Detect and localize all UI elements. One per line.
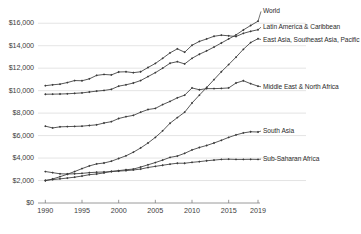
data-point-marker — [52, 172, 54, 174]
series-label-2: East Asia, Southeast Asia, Pacific — [263, 36, 360, 44]
data-point-marker — [81, 172, 83, 174]
series-label-5: Sub-Saharan Africa — [263, 155, 319, 163]
y-tick-label: $2,000 — [0, 177, 34, 185]
data-point-marker — [154, 165, 156, 167]
data-point-marker — [52, 93, 54, 95]
data-point-marker — [103, 162, 105, 164]
data-point-marker — [74, 173, 76, 175]
data-point-marker — [242, 132, 244, 134]
data-point-marker — [59, 93, 61, 95]
data-point-marker — [147, 108, 149, 110]
data-point-marker — [191, 161, 193, 163]
data-point-marker — [59, 176, 61, 178]
data-point-marker — [74, 176, 76, 178]
series-line-5 — [45, 159, 258, 174]
y-tick-label: $8,000 — [0, 109, 34, 117]
data-point-marker — [59, 126, 61, 128]
chart-container: $0$2,000$4,000$6,000$8,000$10,000$12,000… — [0, 0, 361, 234]
data-point-marker — [206, 144, 208, 146]
data-point-marker — [125, 71, 127, 73]
data-point-marker — [44, 170, 46, 172]
x-tick-label: 2010 — [176, 207, 208, 215]
series-line-1 — [45, 30, 258, 86]
data-point-marker — [44, 179, 46, 181]
data-point-marker — [213, 159, 215, 161]
y-tick-label: $4,000 — [0, 154, 34, 162]
data-point-marker — [220, 158, 222, 160]
x-tick-label: 2005 — [139, 207, 171, 215]
data-point-marker — [176, 162, 178, 164]
data-point-marker — [52, 84, 54, 86]
x-tick-label: 1990 — [29, 207, 61, 215]
data-point-marker — [96, 163, 98, 165]
data-point-marker — [88, 124, 90, 126]
label-leader-line — [258, 131, 261, 132]
data-point-marker — [213, 35, 215, 37]
x-tick-label: 1995 — [66, 207, 98, 215]
data-point-marker — [74, 170, 76, 172]
y-tick-label: $16,000 — [0, 19, 34, 27]
data-point-marker — [162, 164, 164, 166]
y-tick-label: $0 — [0, 199, 34, 207]
series-lines — [45, 21, 258, 181]
data-point-marker — [103, 89, 105, 91]
series-label-0: World — [263, 7, 280, 15]
data-point-marker — [147, 164, 149, 166]
data-point-marker — [228, 35, 230, 37]
data-point-marker — [96, 124, 98, 126]
data-point-marker — [59, 178, 61, 180]
data-point-marker — [220, 139, 222, 141]
series-line-4 — [45, 132, 258, 181]
data-point-marker — [44, 93, 46, 95]
data-point-marker — [59, 83, 61, 85]
data-point-marker — [59, 173, 61, 175]
series-label-4: South Asia — [263, 127, 294, 135]
y-tick-label: $6,000 — [0, 132, 34, 140]
series-line-0 — [45, 21, 258, 94]
data-point-marker — [66, 125, 68, 127]
data-point-marker — [81, 125, 83, 127]
label-leader-line — [258, 27, 261, 30]
data-point-marker — [52, 127, 54, 129]
data-point-marker — [96, 171, 98, 173]
data-point-marker — [74, 79, 76, 81]
data-point-marker — [110, 74, 112, 76]
data-point-marker — [103, 73, 105, 75]
data-point-marker — [88, 165, 90, 167]
data-point-marker — [206, 160, 208, 162]
data-point-marker — [118, 157, 120, 159]
data-point-marker — [74, 125, 76, 127]
data-point-marker — [88, 174, 90, 176]
series-label-3: Middle East & North Africa — [263, 83, 339, 91]
data-point-marker — [250, 131, 252, 133]
data-point-marker — [125, 116, 127, 118]
x-tick-label: 2019 — [242, 207, 274, 215]
data-point-marker — [213, 87, 215, 89]
data-point-marker — [198, 161, 200, 163]
data-point-marker — [81, 175, 83, 177]
data-point-marker — [140, 168, 142, 170]
x-tick-label: 2015 — [213, 207, 245, 215]
data-point-marker — [125, 84, 127, 86]
data-point-marker — [96, 90, 98, 92]
series-markers — [44, 20, 259, 182]
data-point-marker — [74, 92, 76, 94]
label-leader-line — [258, 11, 261, 21]
data-point-marker — [242, 158, 244, 160]
data-point-marker — [66, 81, 68, 83]
data-point-marker — [103, 122, 105, 124]
data-point-marker — [88, 172, 90, 174]
data-point-marker — [235, 158, 237, 160]
data-point-marker — [140, 166, 142, 168]
series-label-1: Latin America & Caribbean — [263, 23, 340, 31]
label-leader-lines — [258, 11, 261, 159]
data-point-marker — [162, 159, 164, 161]
data-point-marker — [169, 163, 171, 165]
data-point-marker — [147, 166, 149, 168]
data-point-marker — [176, 61, 178, 63]
data-point-marker — [81, 80, 83, 82]
y-tick-label: $10,000 — [0, 87, 34, 95]
data-point-marker — [81, 167, 83, 169]
data-point-marker — [213, 142, 215, 144]
data-point-marker — [66, 177, 68, 179]
